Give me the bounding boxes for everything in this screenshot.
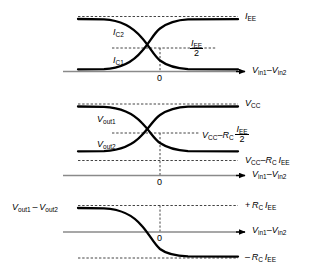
label-xaxis-panel3: Vin1–Vin2 [252, 226, 286, 235]
label-vout1: Vout1 [97, 115, 116, 124]
label-xaxis-panel1: Vin1–Vin2 [252, 66, 286, 75]
label-minus-rc-iee: – RC IEE [245, 253, 276, 262]
label-vout2: Vout2 [97, 140, 116, 149]
label-iee-over-2: IEE 2 [190, 40, 203, 60]
label-origin-panel1: 0 [157, 74, 162, 83]
label-vcc-minus-rc-iee: VCC–RC IEE [245, 156, 290, 165]
label-iee-asymptote: IEE [245, 12, 256, 21]
label-plus-rc-iee: + RC IEE [245, 201, 276, 210]
panel-collector-currents [63, 17, 245, 72]
curve-ic1 [78, 19, 238, 69]
label-vcc-asymptote: VCC [245, 99, 260, 108]
label-ic2: IC2 [113, 28, 124, 37]
label-vcc-minus-rc-iee-half: VCC–RC IEE 2 [202, 126, 249, 146]
differential-pair-characteristics-figure: IC2 IC1 IEE IEE 2 0 Vin1–Vin2 Vout1 Vout… [0, 0, 329, 272]
label-origin-panel2: 0 [157, 178, 162, 187]
curve-ic2 [78, 19, 238, 69]
label-ic1: IC1 [113, 56, 124, 65]
label-origin-panel3: 0 [157, 234, 162, 243]
label-xaxis-panel2: Vin1–Vin2 [252, 170, 286, 179]
panel-differential-output [63, 206, 245, 259]
label-yaxis-vout-differential: Vout1 – Vout2 [12, 203, 58, 212]
